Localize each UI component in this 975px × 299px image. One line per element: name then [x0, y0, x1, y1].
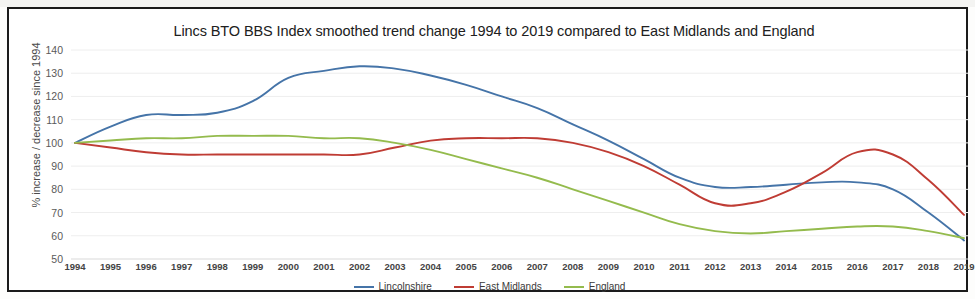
- x-tick-label: 2007: [527, 261, 548, 272]
- chart-canvas: Lincs BTO BBS Index smoothed trend chang…: [9, 9, 966, 290]
- x-tick-label: 2009: [598, 261, 619, 272]
- x-tick-label: 2011: [669, 261, 690, 272]
- legend-label: East Midlands: [479, 281, 542, 292]
- x-tick-label: 2015: [811, 261, 832, 272]
- plot-svg: [9, 9, 970, 294]
- chart-frame: Lincs BTO BBS Index smoothed trend chang…: [7, 7, 968, 292]
- x-tick-label: 1997: [171, 261, 192, 272]
- x-axis-ticks: 1994199519961997199819992000200120022003…: [9, 261, 970, 279]
- x-tick-label: 2005: [456, 261, 477, 272]
- x-tick-label: 2003: [384, 261, 405, 272]
- legend-line-icon: [354, 286, 374, 288]
- legend-item[interactable]: East Midlands: [454, 281, 542, 292]
- x-tick-label: 2002: [349, 261, 370, 272]
- x-tick-label: 2019: [953, 261, 974, 272]
- x-tick-label: 1994: [64, 261, 85, 272]
- legend-label: England: [589, 281, 626, 292]
- x-tick-label: 1995: [100, 261, 121, 272]
- chart-legend: LincolnshireEast MidlandsEngland: [9, 281, 970, 292]
- x-tick-label: 1999: [242, 261, 263, 272]
- scan-page-edge: [0, 0, 975, 7]
- legend-label: Lincolnshire: [379, 281, 432, 292]
- x-tick-label: 1998: [207, 261, 228, 272]
- legend-line-icon: [454, 286, 474, 288]
- x-tick-label: 2004: [420, 261, 441, 272]
- x-tick-label: 2000: [278, 261, 299, 272]
- series-line-lincolnshire: [75, 66, 964, 240]
- legend-line-icon: [564, 286, 584, 288]
- x-tick-label: 2012: [705, 261, 726, 272]
- x-tick-label: 2008: [562, 261, 583, 272]
- x-tick-label: 2017: [882, 261, 903, 272]
- x-tick-label: 2014: [776, 261, 797, 272]
- series-line-england: [75, 136, 964, 238]
- x-tick-label: 2001: [313, 261, 334, 272]
- x-tick-label: 1996: [136, 261, 157, 272]
- x-tick-label: 2018: [918, 261, 939, 272]
- chart-screenshot: Lincs BTO BBS Index smoothed trend chang…: [0, 0, 975, 299]
- x-tick-label: 2016: [847, 261, 868, 272]
- x-tick-label: 2006: [491, 261, 512, 272]
- x-tick-label: 2010: [633, 261, 654, 272]
- legend-item[interactable]: England: [564, 281, 626, 292]
- series-line-east-midlands: [75, 138, 964, 215]
- x-tick-label: 2013: [740, 261, 761, 272]
- legend-item[interactable]: Lincolnshire: [354, 281, 432, 292]
- plot-area: [9, 9, 970, 294]
